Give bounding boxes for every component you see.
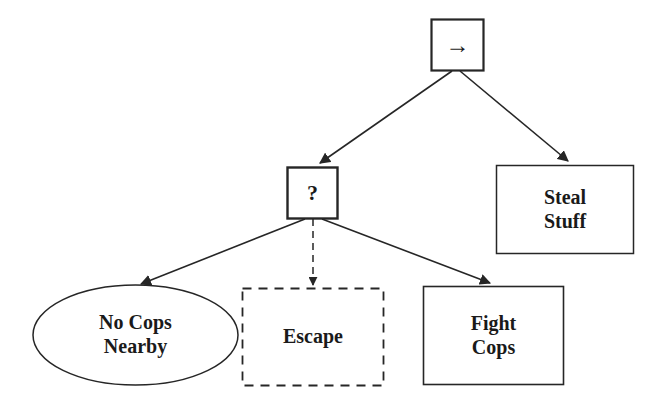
node-no-cops-nearby[interactable] <box>33 285 238 385</box>
node-question[interactable] <box>288 168 338 219</box>
edge-question-to-no-cops-nearby <box>141 219 305 284</box>
node-fight-cops[interactable] <box>424 287 564 385</box>
edge-root-to-question <box>320 71 452 163</box>
node-root[interactable] <box>432 20 484 71</box>
node-steal-stuff[interactable] <box>497 166 634 254</box>
node-escape[interactable] <box>243 289 384 386</box>
node-shape-group <box>33 20 634 386</box>
edge-question-to-fight-cops <box>322 219 490 283</box>
diagram-canvas <box>0 0 661 401</box>
edge-root-to-steal-stuff <box>460 71 568 161</box>
